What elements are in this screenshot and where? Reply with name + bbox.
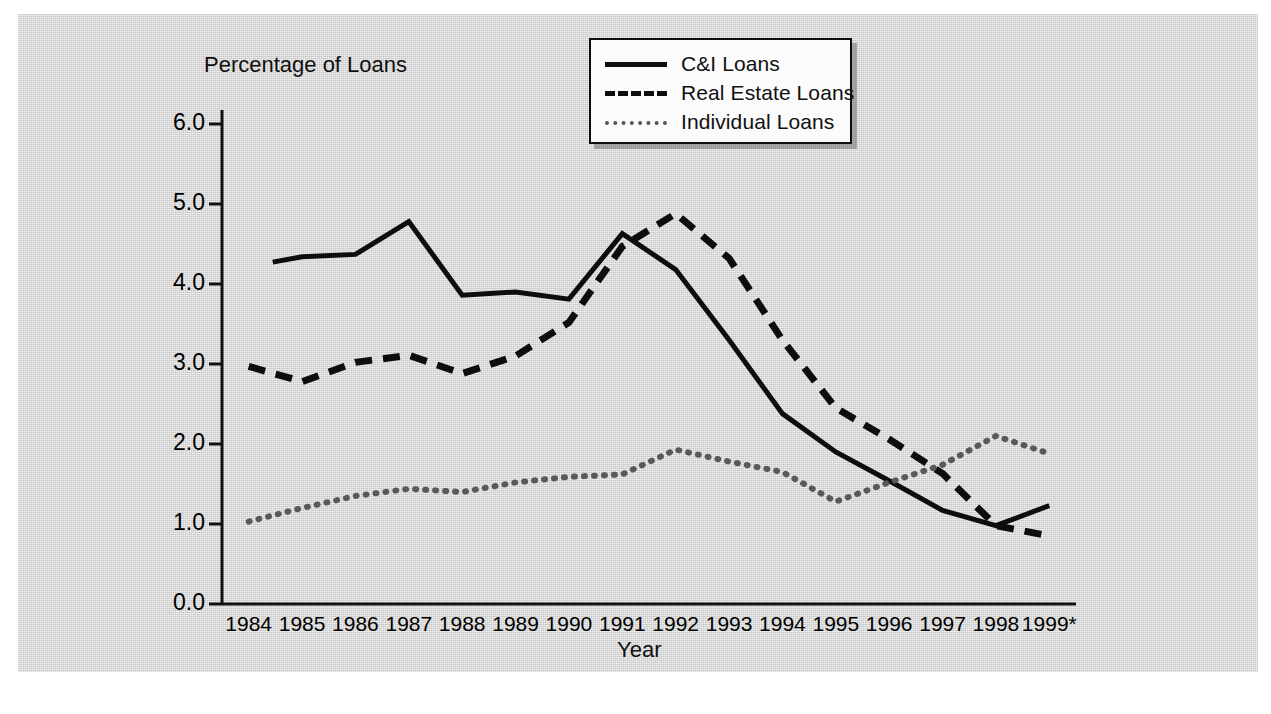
legend-label-individual-loans: Individual Loans: [681, 110, 834, 134]
y-tick-label: 2.0: [143, 429, 205, 456]
data-series-line: [273, 222, 1050, 526]
x-tick-label: 1992: [646, 612, 706, 636]
x-tick-label: 1995: [806, 612, 866, 636]
legend-item-ci-loans[interactable]: C&I Loans: [591, 49, 850, 78]
x-tick-label: 1984: [219, 612, 279, 636]
legend-swatch-dashed-icon: [605, 86, 667, 100]
x-tick-label: 1985: [272, 612, 332, 636]
y-tick-label: 6.0: [143, 109, 205, 136]
series-group: [249, 214, 1050, 536]
x-tick-label: 1994: [752, 612, 812, 636]
legend-item-real-estate-loans[interactable]: Real Estate Loans: [591, 78, 850, 107]
legend-swatch-solid-icon: [605, 57, 667, 71]
axes-group: [209, 110, 1076, 604]
x-tick-label: 1987: [379, 612, 439, 636]
data-series-line: [249, 214, 1050, 536]
y-tick-label: 4.0: [143, 269, 205, 296]
legend-swatch-dotted-icon: [605, 115, 667, 129]
chart-legend: C&I Loans Real Estate Loans Individual L…: [589, 38, 852, 144]
x-tick-label: 1999*: [1019, 612, 1079, 636]
y-tick-label: 3.0: [143, 349, 205, 376]
x-tick-label: 1986: [325, 612, 385, 636]
y-tick-label: 0.0: [143, 589, 205, 616]
x-tick-label: 1993: [699, 612, 759, 636]
legend-label-ci-loans: C&I Loans: [681, 52, 780, 76]
y-axis-title: Percentage of Loans: [204, 52, 407, 78]
legend-item-individual-loans[interactable]: Individual Loans: [591, 107, 850, 136]
x-tick-label: 1996: [859, 612, 919, 636]
x-tick-label: 1990: [539, 612, 599, 636]
legend-label-real-estate-loans: Real Estate Loans: [681, 81, 854, 105]
data-series-line: [249, 436, 1050, 522]
x-tick-label: 1989: [486, 612, 546, 636]
y-tick-label: 1.0: [143, 509, 205, 536]
x-tick-label: 1991: [592, 612, 652, 636]
x-tick-label: 1988: [432, 612, 492, 636]
y-tick-label: 5.0: [143, 189, 205, 216]
x-axis-title: Year: [617, 637, 661, 663]
x-tick-label: 1998: [966, 612, 1026, 636]
x-tick-label: 1997: [913, 612, 973, 636]
figure-root: Percentage of Loans Year 0.01.02.03.04.0…: [0, 0, 1271, 714]
